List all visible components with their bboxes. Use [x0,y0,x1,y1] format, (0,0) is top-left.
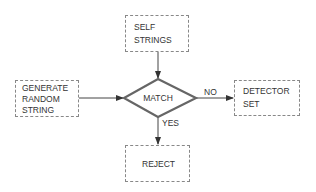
node-self-strings: SELF STRINGS [125,15,189,52]
edge-label-no: NO [204,87,217,97]
node-detector-set: DETECTOR SET [234,80,300,116]
node-text: STRING [22,105,68,116]
node-generate-random-string: GENERATE RANDOM STRING [15,80,79,117]
node-text: RANDOM [22,94,68,105]
match-label: MATCH [128,93,188,103]
node-reject: REJECT [125,145,190,182]
node-text: STRINGS [134,35,172,46]
node-text: GENERATE [22,83,68,94]
node-text: SET [243,99,290,110]
edge-label-yes: YES [162,118,179,128]
node-text: SELF [134,22,172,33]
node-text: REJECT [142,159,175,170]
flowchart: SELF STRINGS GENERATE RANDOM STRING MATC… [0,0,316,192]
node-text: DETECTOR [243,86,290,97]
